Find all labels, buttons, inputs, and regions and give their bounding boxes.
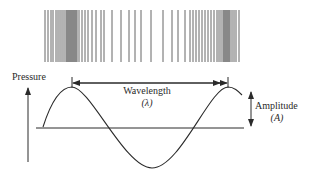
amplitude-symbol: (A) xyxy=(271,112,284,124)
compression-rarefaction-bars xyxy=(45,10,239,62)
sound-wave-diagram: Pressure Wavelength (λ) Amplitude (A) xyxy=(0,0,310,175)
wavelength-symbol: (λ) xyxy=(142,97,154,109)
y-axis-label: Pressure xyxy=(12,71,46,82)
wavelength-label: Wavelength xyxy=(123,85,171,96)
amplitude-label: Amplitude xyxy=(255,100,298,111)
